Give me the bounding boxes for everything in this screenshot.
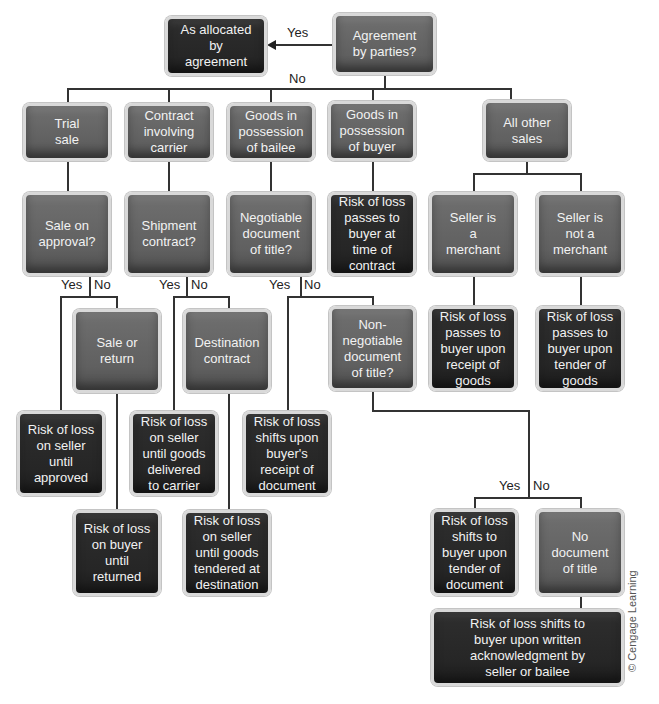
no-label: No: [304, 278, 321, 292]
node-risk-receipt-document: Risk of loss shifts upon buyer's receipt…: [243, 411, 331, 496]
node-sale-on-approval: Sale on approval?: [23, 192, 111, 276]
node-as-allocated: As allocated by agreement: [165, 16, 267, 76]
connector: [228, 296, 230, 310]
connector: [473, 275, 475, 307]
node-seller-not-merchant: Seller is not a merchant: [536, 192, 624, 276]
connector: [384, 74, 386, 88]
connector: [372, 390, 374, 410]
no-label: No: [533, 479, 550, 493]
connector: [580, 173, 582, 193]
connector: [116, 392, 118, 510]
node-sale-or-return: Sale or return: [73, 309, 161, 393]
connector: [67, 160, 69, 193]
yes-label: Yes: [287, 26, 308, 40]
connector: [528, 410, 530, 497]
connector: [60, 296, 116, 298]
node-goods-buyer: Goods in possession of buyer: [328, 101, 416, 161]
connector: [168, 160, 170, 193]
no-label: No: [94, 278, 111, 292]
connector: [67, 88, 511, 90]
connector: [580, 275, 582, 307]
node-risk-time-of-contract: Risk of loss passes to buyer at time of …: [328, 192, 416, 276]
connector: [372, 160, 374, 193]
node-goods-bailee: Goods in possession of bailee: [227, 103, 315, 161]
yes-label: Yes: [499, 479, 520, 493]
node-risk-seller-destination: Risk of loss on seller until goods tende…: [183, 510, 271, 596]
node-non-negotiable-document: Non- negotiable document of title?: [329, 306, 416, 391]
connector: [67, 88, 69, 104]
connector: [168, 88, 170, 104]
no-label: No: [191, 278, 208, 292]
node-no-document-of-title: No document of title: [536, 509, 624, 596]
node-risk-receipt-goods: Risk of loss passes to buyer upon receip…: [429, 306, 517, 391]
connector: [186, 275, 188, 296]
yes-label: Yes: [61, 278, 82, 292]
connector: [300, 275, 302, 296]
yes-arrow-line: [275, 44, 333, 46]
connector: [287, 296, 289, 412]
connector: [372, 410, 529, 412]
connector: [473, 173, 581, 175]
node-risk-tender-goods: Risk of loss passes to buyer upon tender…: [536, 306, 624, 391]
connector: [510, 88, 512, 100]
connector: [526, 160, 528, 173]
node-risk-tender-document: Risk of loss shifts to buyer upon tender…: [431, 509, 518, 596]
connector: [580, 595, 582, 610]
node-contract-carrier: Contract involving carrier: [125, 103, 213, 161]
no-label: No: [289, 72, 306, 86]
connector: [270, 160, 272, 193]
connector: [473, 173, 475, 193]
connector: [228, 392, 230, 510]
node-shipment-contract: Shipment contract?: [125, 192, 213, 276]
node-seller-merchant: Seller is a merchant: [429, 192, 517, 276]
node-agreement-by-parties: Agreement by parties?: [333, 13, 436, 75]
connector: [287, 296, 373, 298]
node-trial-sale: Trial sale: [23, 103, 111, 161]
connector: [173, 296, 175, 412]
copyright-credit: © Cengage Learning: [626, 570, 638, 672]
node-destination-contract: Destination contract: [183, 309, 271, 393]
yes-label: Yes: [159, 278, 180, 292]
node-risk-seller-delivered-carrier: Risk of loss on seller until goods deliv…: [130, 411, 218, 496]
connector: [270, 88, 272, 104]
connector: [89, 275, 91, 296]
node-risk-seller-until-approved: Risk of loss on seller until approved: [17, 411, 105, 496]
connector: [60, 296, 62, 412]
node-negotiable-document: Negotiable document of title?: [227, 192, 315, 276]
connector: [116, 296, 118, 310]
node-all-other-sales: All other sales: [483, 100, 571, 161]
node-risk-buyer-until-returned: Risk of loss on buyer until returned: [73, 510, 161, 596]
yes-label: Yes: [269, 278, 290, 292]
connector: [474, 497, 581, 499]
node-risk-written-acknowledgment: Risk of loss shifts to buyer upon writte…: [431, 609, 624, 686]
arrow-left-icon: [267, 40, 276, 50]
connector: [173, 296, 228, 298]
